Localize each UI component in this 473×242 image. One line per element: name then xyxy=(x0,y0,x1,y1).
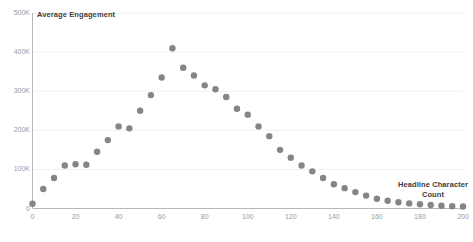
x-tick-label: 180 xyxy=(408,213,432,220)
x-tick-label: 80 xyxy=(193,213,217,220)
data-point[interactable] xyxy=(298,162,304,168)
data-point[interactable] xyxy=(223,94,229,100)
x-tick-label: 200 xyxy=(451,213,473,220)
y-axis-title: Average Engagement xyxy=(37,10,115,19)
data-point[interactable] xyxy=(384,197,390,203)
x-tick-label: 100 xyxy=(236,213,260,220)
data-point[interactable] xyxy=(29,201,35,207)
data-point[interactable] xyxy=(40,186,46,192)
data-point[interactable] xyxy=(62,162,68,168)
x-tick-label: 120 xyxy=(279,213,303,220)
x-tick-label: 60 xyxy=(150,213,174,220)
data-point[interactable] xyxy=(406,200,412,206)
y-tick-label: 0 xyxy=(0,205,30,212)
data-point[interactable] xyxy=(438,203,444,209)
data-point[interactable] xyxy=(212,86,218,92)
data-point[interactable] xyxy=(94,149,100,155)
data-point[interactable] xyxy=(331,181,337,187)
scatter-chart: Average Engagement Headline Character Co… xyxy=(0,0,473,242)
data-point[interactable] xyxy=(428,202,434,208)
x-tick-label: 20 xyxy=(64,213,88,220)
data-point[interactable] xyxy=(363,192,369,198)
data-point[interactable] xyxy=(51,175,57,181)
y-tick-label: 500K xyxy=(0,9,30,16)
data-point[interactable] xyxy=(255,123,261,129)
data-point[interactable] xyxy=(266,133,272,139)
y-tick-label: 100K xyxy=(0,165,30,172)
data-point[interactable] xyxy=(234,106,240,112)
data-point[interactable] xyxy=(126,125,132,131)
data-point[interactable] xyxy=(460,203,466,209)
y-tick-label: 200K xyxy=(0,126,30,133)
data-point[interactable] xyxy=(341,185,347,191)
x-axis-title: Headline Character Count xyxy=(396,180,470,199)
data-point[interactable] xyxy=(148,92,154,98)
data-point[interactable] xyxy=(137,108,143,114)
data-point[interactable] xyxy=(417,201,423,207)
data-point[interactable] xyxy=(180,65,186,71)
data-point[interactable] xyxy=(352,189,358,195)
data-point[interactable] xyxy=(245,111,251,117)
data-point[interactable] xyxy=(191,72,197,78)
data-point[interactable] xyxy=(277,147,283,153)
data-point[interactable] xyxy=(105,137,111,143)
data-point[interactable] xyxy=(374,196,380,202)
data-point[interactable] xyxy=(395,199,401,205)
data-point[interactable] xyxy=(83,162,89,168)
data-point[interactable] xyxy=(320,175,326,181)
x-tick-label: 160 xyxy=(365,213,389,220)
data-point[interactable] xyxy=(169,45,175,51)
y-tick-label: 400K xyxy=(0,48,30,55)
x-tick-label: 40 xyxy=(107,213,131,220)
plot-area xyxy=(0,0,473,242)
data-point[interactable] xyxy=(449,203,455,209)
data-point[interactable] xyxy=(288,154,294,160)
data-point[interactable] xyxy=(158,74,164,80)
data-point[interactable] xyxy=(202,82,208,88)
x-tick-label: 0 xyxy=(21,213,45,220)
data-point[interactable] xyxy=(309,168,315,174)
data-point[interactable] xyxy=(115,123,121,129)
x-tick-label: 140 xyxy=(322,213,346,220)
data-point[interactable] xyxy=(72,161,78,167)
y-tick-label: 300K xyxy=(0,87,30,94)
